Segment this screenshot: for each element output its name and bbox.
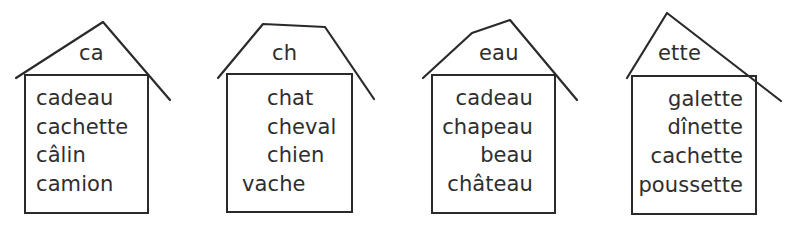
word: dînette	[668, 117, 743, 138]
word: cachette	[651, 146, 743, 167]
word: galette	[668, 89, 743, 110]
roof-label: ette	[658, 43, 701, 64]
sound-houses-diagram: ca cadeau cachette câlin camion ch chat …	[0, 0, 789, 229]
house-ette: ette galette dînette cachette poussette	[0, 0, 789, 229]
word: poussette	[638, 175, 743, 196]
